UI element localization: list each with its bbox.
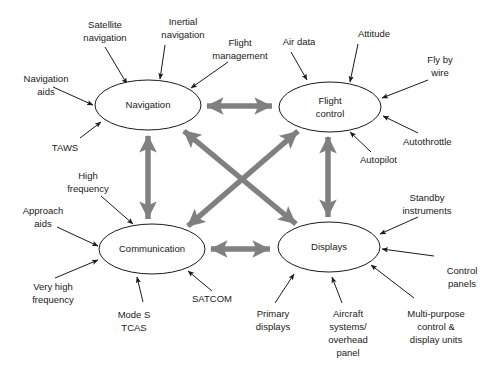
- label-satellite-navigation-line1: Satellite: [88, 19, 122, 30]
- label-flight-management: Flight management: [212, 37, 268, 61]
- arrow-high-frequency: [101, 196, 133, 224]
- label-approach-aids-line1: Approach: [23, 205, 64, 216]
- label-high-frequency-line1: High: [78, 170, 98, 181]
- label-taws: TAWS: [52, 142, 78, 153]
- label-air-data-line1: Air data: [283, 36, 316, 47]
- arrow-standby-instruments: [380, 217, 418, 234]
- label-satellite-navigation-line2: navigation: [83, 32, 126, 43]
- label-multi-purpose-control-display-units: Multi-purpose control & display units: [407, 308, 465, 345]
- label-aircraft-systems-line4: panel: [336, 347, 359, 358]
- label-primary-displays-line1: Primary: [257, 308, 290, 319]
- node-flight-control-label-line1: Flight: [318, 95, 342, 106]
- label-very-high-frequency-line1: Very high: [33, 281, 73, 292]
- label-taws-line1: TAWS: [52, 142, 78, 153]
- label-inertial-navigation-line2: navigation: [161, 29, 204, 40]
- node-displays[interactable]: Displays: [278, 222, 380, 272]
- node-navigation-label: Navigation: [126, 99, 171, 110]
- label-primary-displays: Primary displays: [256, 308, 291, 332]
- label-satcom-line1: SATCOM: [192, 293, 232, 304]
- label-aircraft-systems-line1: Aircraft: [333, 308, 363, 319]
- node-communication[interactable]: Communication: [99, 224, 205, 274]
- label-aircraft-systems-line3: overhead: [328, 334, 368, 345]
- arrow-mode-s-tcas: [137, 277, 143, 302]
- arrow-control-panels: [382, 249, 434, 256]
- label-autopilot-line1: Autopilot: [360, 154, 397, 165]
- arrow-flight-management: [191, 62, 228, 88]
- node-displays-label: Displays: [311, 241, 347, 252]
- label-multi-purpose-line3: display units: [410, 334, 463, 345]
- avionics-diagram: Navigation Flight control Communication …: [0, 0, 496, 372]
- diagram-canvas: Navigation Flight control Communication …: [0, 0, 496, 372]
- node-communication-label: Communication: [119, 243, 185, 254]
- arrow-primary-displays: [275, 274, 294, 303]
- arrow-taws: [80, 122, 101, 138]
- label-aircraft-systems-line2: systems/: [329, 321, 367, 332]
- label-fly-by-wire-line1: Fly by: [427, 54, 453, 65]
- label-navigation-aids-line1: Navigation: [24, 73, 69, 84]
- arrow-autopilot: [350, 132, 371, 152]
- label-control-panels-line2: panels: [448, 278, 476, 289]
- arrow-air-data: [291, 52, 307, 80]
- label-navigation-aids-line2: aids: [37, 86, 55, 97]
- label-navigation-aids: Navigation aids: [24, 73, 69, 97]
- label-attitude: Attitude: [358, 28, 390, 39]
- arrow-approach-aids: [57, 227, 98, 246]
- arrow-navigation-aids: [53, 87, 93, 105]
- arrow-very-high-frequency: [55, 260, 98, 278]
- node-flight-control[interactable]: Flight control: [279, 82, 381, 132]
- arrow-autothrottle: [383, 116, 418, 133]
- arrow-inertial-navigation: [160, 45, 165, 79]
- arrow-satellite-navigation: [105, 47, 127, 84]
- label-aircraft-systems-overhead-panel: Aircraft systems/ overhead panel: [328, 308, 368, 358]
- label-multi-purpose-line1: Multi-purpose: [407, 308, 465, 319]
- arrow-attitude: [350, 44, 358, 82]
- label-autothrottle: Autothrottle: [403, 136, 452, 147]
- label-high-frequency-line2: frequency: [67, 183, 109, 194]
- label-air-data: Air data: [283, 36, 316, 47]
- label-control-panels-line1: Control: [447, 265, 478, 276]
- label-flight-management-line2: management: [212, 50, 268, 61]
- arrow-multi-purpose-control-display-units: [371, 265, 414, 298]
- node-navigation[interactable]: Navigation: [95, 80, 201, 130]
- label-control-panels: Control panels: [447, 265, 478, 289]
- label-standby-instruments-line2: instruments: [402, 205, 451, 216]
- label-autopilot: Autopilot: [360, 154, 397, 165]
- label-satellite-navigation: Satellite navigation: [83, 19, 126, 43]
- label-high-frequency: High frequency: [67, 170, 109, 194]
- label-mode-s-tcas-line1: Mode S: [118, 309, 151, 320]
- label-standby-instruments: Standby instruments: [402, 192, 451, 216]
- label-multi-purpose-line2: control &: [417, 321, 455, 332]
- label-attitude-line1: Attitude: [358, 28, 390, 39]
- label-mode-s-tcas: Mode S TCAS: [118, 309, 151, 333]
- label-fly-by-wire-line2: wire: [430, 67, 448, 78]
- label-primary-displays-line2: displays: [256, 321, 291, 332]
- arrow-satcom: [188, 271, 212, 291]
- label-standby-instruments-line1: Standby: [410, 192, 445, 203]
- arrow-aircraft-systems-overhead-panel: [332, 277, 342, 303]
- label-very-high-frequency-line2: frequency: [32, 294, 74, 305]
- label-mode-s-tcas-line2: TCAS: [121, 322, 146, 333]
- label-satcom: SATCOM: [192, 293, 232, 304]
- label-approach-aids-line2: aids: [34, 218, 52, 229]
- label-fly-by-wire: Fly by wire: [427, 54, 453, 78]
- label-approach-aids: Approach aids: [23, 205, 64, 229]
- label-very-high-frequency: Very high frequency: [32, 281, 74, 305]
- label-inertial-navigation-line1: Inertial: [169, 16, 198, 27]
- arrow-fly-by-wire: [382, 80, 428, 98]
- label-autothrottle-line1: Autothrottle: [403, 136, 452, 147]
- node-flight-control-label-line2: control: [316, 108, 345, 119]
- label-flight-management-line1: Flight: [228, 37, 252, 48]
- label-inertial-navigation: Inertial navigation: [161, 16, 204, 40]
